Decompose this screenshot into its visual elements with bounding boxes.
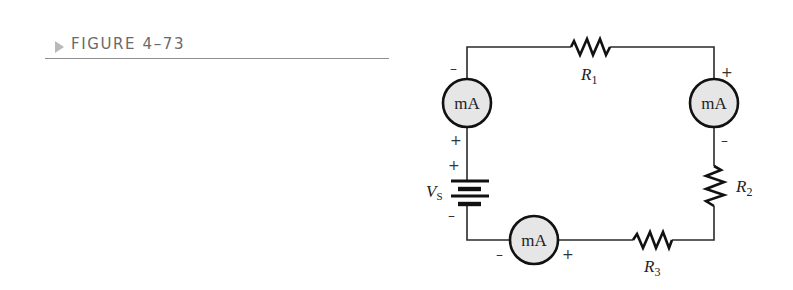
wire-right-lower [672,206,714,240]
resistor-r1: R1 [571,39,610,87]
resistor-r3-zigzag-icon [633,232,672,248]
resistor-r2-zigzag-icon [706,166,724,206]
resistor-r3-label: R3 [643,257,660,279]
resistor-r1-label: R1 [580,65,597,87]
wire-top-right [610,47,714,79]
ammeter-left-label: mA [454,94,480,113]
ammeter-bottom-left-sign: – [496,246,503,262]
ammeter-right-top-sign: + [721,64,733,80]
resistor-r1-zigzag-icon [571,39,610,55]
ammeter-bottom-right-sign: + [562,246,574,262]
resistor-r3: R3 [633,232,672,279]
voltage-source-label: VS [426,182,443,202]
wire-bottom-left [467,204,510,240]
battery-negative-sign: – [448,207,455,223]
ammeter-right-label: mA [701,94,727,113]
wire-top-left [467,47,571,79]
ammeter-left-top-sign: – [450,60,457,76]
battery-positive-sign: + [448,157,460,173]
ammeter-left-bottom-sign: + [450,132,462,148]
ammeter-right-bottom-sign: – [721,132,728,148]
voltage-source: + – VS [426,157,489,223]
resistor-r2-label: R2 [735,177,752,199]
resistor-r2: R2 [706,166,752,206]
circuit-diagram: R1 R2 R3 + – VS mA – + mA + – mA – + [0,0,793,290]
ammeter-bottom-label: mA [521,231,547,250]
